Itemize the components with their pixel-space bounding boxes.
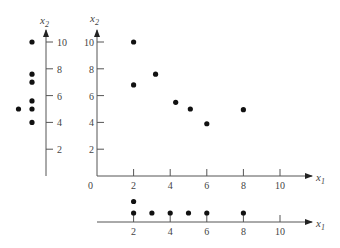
- x2-tick-label: 6: [57, 91, 62, 102]
- data-point: [204, 121, 209, 126]
- origin-label: 0: [88, 180, 93, 191]
- data-point: [241, 107, 246, 112]
- marginal-point: [29, 72, 34, 77]
- main-axis-ticks: 246810246810: [84, 37, 285, 191]
- x1-marginal-points: [131, 199, 246, 216]
- marginal-point: [29, 106, 34, 111]
- x1-tick-label: 10: [275, 226, 285, 237]
- x2-marginal-plot: x2 246810: [16, 14, 67, 176]
- x2-marginal-ticks: 246810: [46, 37, 67, 155]
- marginal-point: [16, 106, 21, 111]
- data-point: [188, 106, 193, 111]
- scatter-figure: x2 246810 x2 x1 0 246810246810 x1 246810: [0, 0, 340, 248]
- x2-marginal-points: [16, 39, 35, 125]
- x-tick-label: 8: [241, 180, 246, 191]
- marginal-point: [29, 98, 34, 103]
- x1-tick-label: 2: [131, 226, 136, 237]
- marginal-point: [204, 210, 209, 215]
- x2-tick-label: 4: [57, 117, 62, 128]
- x2-tick-label: 8: [57, 64, 62, 75]
- y-tick-label: 6: [89, 91, 94, 102]
- main-data-points: [131, 39, 246, 126]
- x1-tick-label: 8: [241, 226, 246, 237]
- marginal-point: [29, 39, 34, 44]
- data-point: [131, 82, 136, 87]
- x1-marginal-axis-label: x1: [315, 217, 325, 232]
- marginal-point: [29, 120, 34, 125]
- x2-tick-label: 10: [57, 37, 67, 48]
- marginal-point: [131, 210, 136, 215]
- marginal-point: [186, 210, 191, 215]
- x-tick-label: 10: [275, 180, 285, 191]
- marginal-point: [241, 210, 246, 215]
- x2-marginal-axis-label: x2: [39, 14, 49, 29]
- data-point: [173, 100, 178, 105]
- x-tick-label: 2: [131, 180, 136, 191]
- x2-tick-label: 2: [57, 144, 62, 155]
- main-scatter-plot: x2 x1 0 246810246810: [84, 12, 325, 191]
- marginal-point: [149, 210, 154, 215]
- y-tick-label: 10: [84, 37, 94, 48]
- y-tick-label: 4: [89, 117, 94, 128]
- x-tick-label: 6: [204, 180, 209, 191]
- main-y-axis-label: x2: [89, 12, 99, 27]
- marginal-point: [131, 199, 136, 204]
- main-x-axis-label: x1: [315, 171, 325, 186]
- marginal-point: [29, 80, 34, 85]
- data-point: [153, 72, 158, 77]
- y-tick-label: 2: [89, 144, 94, 155]
- x1-marginal-plot: x1 246810: [97, 199, 325, 237]
- x1-tick-label: 4: [168, 226, 173, 237]
- x1-marginal-ticks: 246810: [131, 215, 285, 237]
- marginal-point: [168, 210, 173, 215]
- data-point: [131, 39, 136, 44]
- x1-tick-label: 6: [204, 226, 209, 237]
- x-tick-label: 4: [168, 180, 173, 191]
- y-tick-label: 8: [89, 64, 94, 75]
